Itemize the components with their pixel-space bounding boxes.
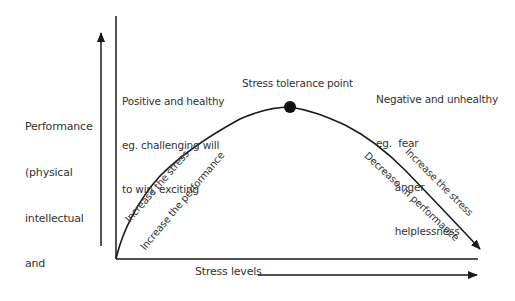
positive-line: Positive and healthy — [122, 94, 224, 109]
negative-region-label: Negative and unhealthy eg. fear anger he… — [376, 63, 498, 267]
positive-line: to win, exciting — [122, 182, 224, 197]
negative-line: eg. fear — [376, 136, 498, 151]
negative-line: Negative and unhealthy — [376, 92, 498, 107]
y-label-line: intellectual — [25, 211, 93, 226]
y-label-line: and — [25, 256, 93, 271]
x-axis-label: Stress levels — [195, 265, 262, 280]
stress-tolerance-point-marker — [284, 101, 296, 113]
y-label-line: (physical — [25, 165, 93, 180]
stress-performance-diagram: Performance (physical intellectual and e… — [0, 0, 515, 301]
y-axis-label: Performance (physical intellectual and e… — [25, 89, 93, 301]
positive-line: eg. challenging will — [122, 138, 224, 153]
stress-tolerance-label: Stress tolerance point — [242, 76, 353, 91]
y-label-line: Performance — [25, 119, 93, 134]
